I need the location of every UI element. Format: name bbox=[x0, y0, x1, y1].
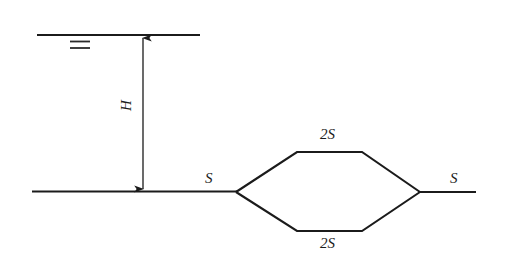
figure-drawing bbox=[0, 0, 510, 271]
label-section-top-branch-2S: 2S bbox=[320, 127, 335, 142]
label-head-H: H bbox=[119, 100, 134, 111]
upper-branch-path bbox=[236, 152, 420, 192]
figure-canvas: H S 2S 2S S bbox=[0, 0, 510, 271]
lower-branch-path bbox=[236, 192, 420, 231]
label-section-left-S: S bbox=[205, 171, 213, 186]
label-section-bottom-branch-2S: 2S bbox=[320, 236, 335, 251]
label-section-right-S: S bbox=[450, 171, 458, 186]
